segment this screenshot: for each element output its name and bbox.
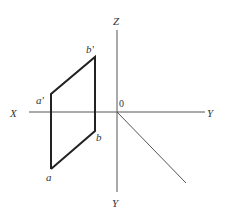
y-axis-diagonal-line <box>117 112 186 183</box>
z-axis-label: Z <box>113 15 120 27</box>
origin-label: 0 <box>119 98 124 109</box>
point-label-b-prime: b' <box>86 43 95 55</box>
point-label-a-prime: a' <box>36 94 45 106</box>
point-label-a: a <box>46 171 52 183</box>
point-label-b: b <box>96 131 102 143</box>
y-axis-bottom-label: Y <box>112 197 120 209</box>
y-axis-right-label: Y <box>207 107 215 119</box>
projection-diagram: X Y Z Y 0 a' b' a b <box>0 0 225 223</box>
projection-top-edge <box>51 57 95 169</box>
x-axis-label: X <box>9 107 18 119</box>
